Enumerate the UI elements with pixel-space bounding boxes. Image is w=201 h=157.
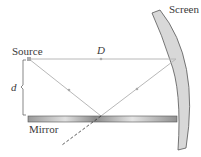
mirror-label: Mirror [29, 123, 59, 135]
distance-label: D [96, 44, 105, 56]
height-label: d [11, 81, 17, 93]
incident-ray-arrow [68, 89, 71, 92]
incident-ray [29, 59, 101, 116]
direct-ray-arrow [100, 58, 103, 61]
height-bracket [21, 60, 26, 115]
screen-shape [152, 10, 190, 150]
reflected-ray-arrow [136, 88, 139, 91]
lloyds-mirror-diagram: Screen Source D d Mirror [0, 0, 201, 157]
screen-label: Screen [169, 3, 199, 15]
source-label: Source [12, 45, 43, 57]
mirror [28, 116, 177, 122]
source-point [27, 57, 31, 61]
reflected-ray [101, 59, 176, 116]
